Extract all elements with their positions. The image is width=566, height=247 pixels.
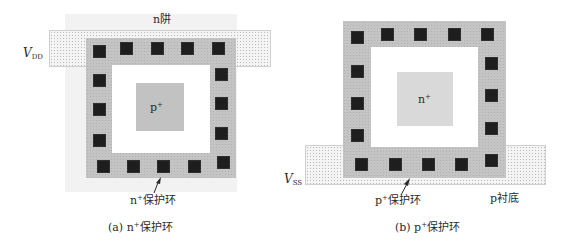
ring-label-main: p (375, 194, 382, 207)
diagram-b: VSS n+ p+保护环 p衬底 (b) p+保护环 (0, 0, 566, 247)
p-substrate-label: p衬底 (490, 193, 519, 204)
caption-b-prefix: (b) p (395, 221, 421, 234)
caption-b-suffix: 保护环 (427, 221, 460, 234)
ring-label-suffix: 保护环 (388, 194, 421, 207)
pointer-arrow-icon (0, 0, 566, 247)
caption-b: (b) p+保护环 (395, 222, 460, 233)
p-plus-ring-label: p+保护环 (375, 195, 421, 206)
